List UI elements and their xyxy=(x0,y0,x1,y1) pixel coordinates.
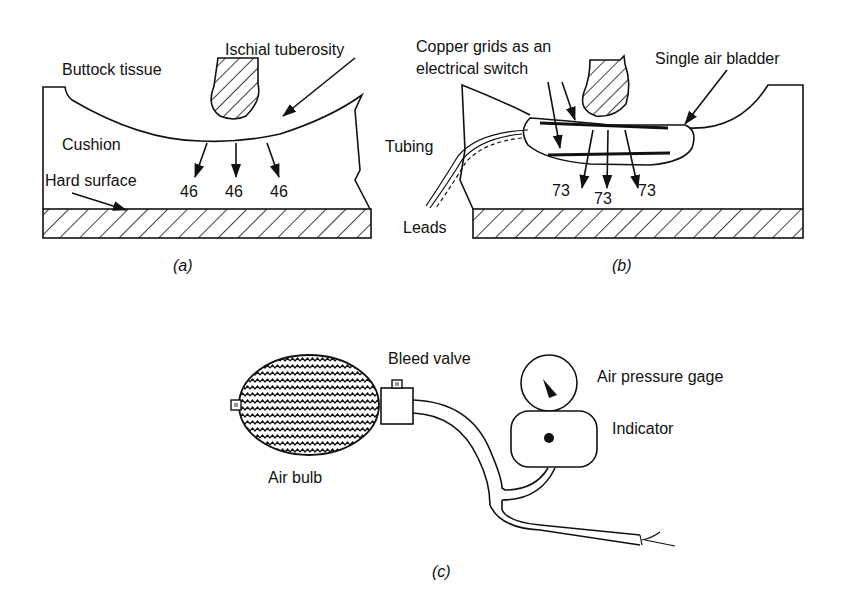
copper-grid-bottom xyxy=(548,153,670,155)
label-tubing: Tubing xyxy=(385,138,433,155)
cushion-outline-b xyxy=(460,85,803,209)
pressure-value-b-1: 73 xyxy=(552,182,570,199)
caption-a: (a) xyxy=(173,257,193,274)
pressure-arrow-b-3 xyxy=(625,130,638,188)
tube-end-leads xyxy=(640,532,675,546)
copper-grid-arrow-1 xyxy=(548,82,560,148)
label-copper-grids-2: electrical switch xyxy=(416,60,528,77)
label-air-pressure-gage: Air pressure gage xyxy=(597,368,723,385)
label-bleed-valve: Bleed valve xyxy=(388,350,471,367)
label-ischial-tuberosity: Ischial tuberosity xyxy=(225,41,344,58)
indicator-light-icon xyxy=(544,433,554,443)
panel-a: Ischial tuberosity Buttock tissue Cushio… xyxy=(43,41,371,274)
pressure-arrow-a-1 xyxy=(195,143,207,177)
label-hard-surface: Hard surface xyxy=(45,172,137,189)
label-indicator: Indicator xyxy=(612,420,674,437)
hard-surface-a xyxy=(43,209,371,238)
leads xyxy=(426,130,528,206)
pressure-arrow-a-3 xyxy=(267,143,279,177)
pressure-value-a-3: 46 xyxy=(270,183,288,200)
pressure-value-a-1: 46 xyxy=(180,183,198,200)
hard-surface-b xyxy=(473,209,803,238)
pressure-value-a-2: 46 xyxy=(225,183,243,200)
label-copper-grids-1: Copper grids as an xyxy=(416,38,551,55)
indicator-box xyxy=(511,411,597,467)
air-bulb xyxy=(239,355,379,455)
caption-c: (c) xyxy=(432,563,451,580)
pressure-arrow-b-2 xyxy=(607,130,608,188)
ischial-tuberosity-bone-b xyxy=(583,56,629,116)
label-buttock-tissue: Buttock tissue xyxy=(62,61,162,78)
bleed-valve-body xyxy=(381,388,413,424)
tube-branch xyxy=(502,468,640,535)
bulb-end-valve-dot xyxy=(234,403,238,407)
pressure-arrow-b-1 xyxy=(582,130,593,188)
panel-c: Bleed valve Air pressure gage Indicator … xyxy=(231,350,723,580)
panel-b: Copper grids as an electrical switch Sin… xyxy=(385,38,803,274)
label-single-air-bladder: Single air bladder xyxy=(655,50,780,67)
ischial-tuberosity-bone-a xyxy=(211,58,259,119)
label-air-bulb: Air bulb xyxy=(268,469,322,486)
pressure-value-b-2: 73 xyxy=(594,190,612,207)
hard-surface-arrow-a xyxy=(72,193,126,210)
label-leads: Leads xyxy=(403,219,447,236)
air-pressure-gage xyxy=(521,355,577,411)
bleed-valve-knob-dot xyxy=(395,382,399,386)
copper-grid-arrow-2 xyxy=(562,82,575,120)
tubing xyxy=(430,134,522,208)
label-cushion: Cushion xyxy=(62,136,121,153)
caption-b: (b) xyxy=(612,257,632,274)
tubing-inner xyxy=(436,138,522,208)
pressure-value-b-3: 73 xyxy=(638,182,656,199)
figure-canvas: Ischial tuberosity Buttock tissue Cushio… xyxy=(0,0,855,598)
air-bladder-arrow xyxy=(685,70,727,124)
